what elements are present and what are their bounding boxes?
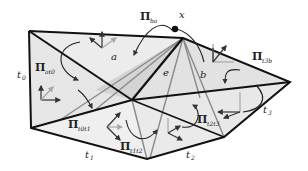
svg-text:0: 0	[22, 74, 26, 81]
svg-text:1: 1	[90, 154, 94, 161]
label-t2: t 2	[186, 149, 195, 161]
svg-text:Π: Π	[120, 140, 130, 153]
label-pi-ba: Π ba	[140, 10, 158, 24]
label-x: x	[179, 9, 185, 20]
label-face-e: e	[163, 67, 169, 78]
svg-text:t2t3: t2t3	[207, 120, 220, 127]
label-t3: t 3	[263, 104, 272, 116]
svg-text:3: 3	[268, 109, 272, 116]
label-face-b: b	[200, 69, 206, 80]
label-t0: t 0	[17, 69, 26, 81]
svg-text:Π: Π	[252, 50, 262, 63]
svg-text:2: 2	[190, 154, 195, 161]
svg-text:t0t1: t0t1	[78, 125, 90, 132]
svg-text:Π: Π	[197, 113, 207, 126]
mesh-faces	[29, 31, 290, 159]
label-pi-t3b: Π t3b	[252, 50, 272, 64]
svg-text:ba: ba	[150, 17, 158, 24]
point-x	[172, 26, 178, 32]
label-t1: t 1	[85, 149, 94, 161]
svg-text:t1t2: t1t2	[130, 147, 143, 154]
svg-text:Π: Π	[68, 118, 78, 131]
svg-text:t3b: t3b	[262, 57, 272, 64]
svg-text:Π: Π	[140, 10, 150, 23]
svg-text:at0: at0	[45, 68, 55, 75]
svg-text:Π: Π	[35, 61, 45, 74]
label-face-a: a	[111, 51, 117, 62]
parallel-transport-diagram: x a e b t 0 t 1 t 2 t 3 Π ba Π at0 Π t0t…	[0, 0, 308, 171]
